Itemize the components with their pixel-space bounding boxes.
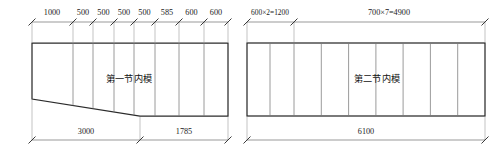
left-dim-label: 1000 — [44, 8, 60, 17]
left-top-extension-lines — [32, 22, 228, 42]
left-dim-label: 500 — [118, 8, 130, 17]
left-dim-label: 500 — [138, 8, 150, 17]
left-dim-label: 585 — [161, 8, 173, 17]
left-dim-label: 500 — [77, 8, 89, 17]
panel-left: 1000 500 500 500 500 585 600 600 第一节内模 — [29, 8, 232, 144]
engineering-drawing: 1000 500 500 500 500 585 600 600 第一节内模 — [0, 0, 499, 154]
left-bottom-dim-label: 3000 — [78, 127, 94, 136]
left-dim-label: 600 — [210, 8, 222, 17]
right-panel-label: 第二节内模 — [354, 73, 401, 84]
left-panel-label: 第一节内模 — [106, 73, 153, 84]
right-dim-label: 700×7=4900 — [368, 8, 410, 17]
left-dim-label: 500 — [97, 8, 109, 17]
right-top-extension-lines — [247, 22, 485, 42]
right-dim-label: 600×2=1200 — [251, 8, 289, 17]
panel-right: 600×2=1200 700×7=4900 第二节内模 6100 — [244, 8, 489, 144]
left-bottom-dim-label: 1785 — [176, 127, 192, 136]
left-dim-label: 600 — [185, 8, 197, 17]
right-bottom-dim-label: 6100 — [358, 127, 374, 136]
